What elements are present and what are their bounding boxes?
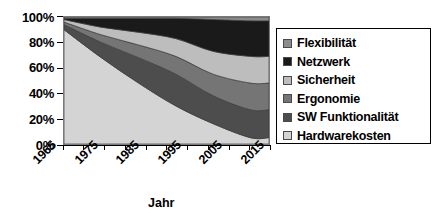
legend-label: Hardwarekosten [297,129,391,143]
legend-item: Sicherheit [283,71,426,89]
area-series-group [64,17,269,144]
legend: Flexibilität Netzwerk Sicherheit Ergonom… [276,28,431,144]
y-tick-label: 100% [2,10,54,25]
x-tick-mark [270,145,271,150]
x-tick-mark [187,145,188,150]
legend-swatch-icon [283,131,292,140]
stacked-area-chart: 100% 80% 60% 40% 20% 0% 1965 1975 1985 1… [0,0,434,220]
legend-label: Ergonomie [297,92,360,106]
y-tick-label: 40% [2,86,54,101]
legend-label: Netzwerk [297,55,350,69]
x-tick-mark [146,145,147,150]
legend-item: SW Funktionalität [283,108,426,126]
legend-swatch-icon [283,113,292,122]
x-tick-mark [229,145,230,150]
legend-item: Netzwerk [283,53,426,71]
legend-label: Flexibilität [297,36,356,50]
y-tick-label: 20% [2,112,54,127]
legend-label: SW Funktionalität [297,110,398,124]
legend-item: Hardwarekosten [283,127,426,145]
legend-swatch-icon [283,94,292,103]
x-tick-mark [63,145,64,150]
legend-item: Flexibilität [283,34,426,52]
y-tick-label: 60% [2,60,54,75]
legend-swatch-icon [283,76,292,85]
legend-swatch-icon [283,39,292,48]
x-tick-mark [104,145,105,150]
legend-label: Sicherheit [297,73,355,87]
x-axis-title: Jahr [148,196,174,210]
legend-item: Ergonomie [283,90,426,108]
plot-area [63,16,270,145]
y-tick-label: 80% [2,35,54,50]
legend-swatch-icon [283,57,292,66]
